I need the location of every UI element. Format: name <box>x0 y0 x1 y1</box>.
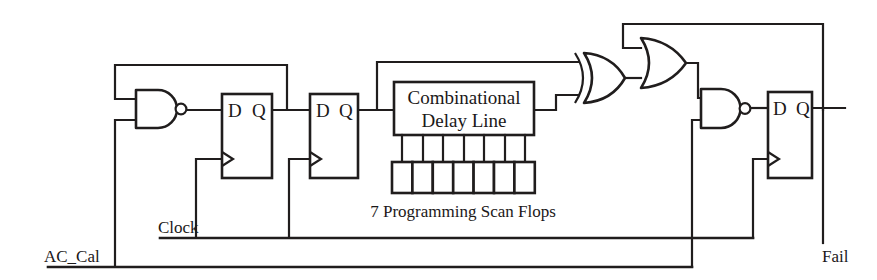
delay-line-label-line1: Combinational <box>408 87 521 108</box>
or-body <box>641 38 686 88</box>
wire-delay-line-out-to-xor-bottom <box>534 95 578 110</box>
nand-gate-right <box>701 89 750 128</box>
scan-flop-cell-7 <box>514 162 534 193</box>
d-flip-flop-3: D Q <box>768 92 812 178</box>
scan-flop-cell-1 <box>392 162 412 193</box>
scan-flop-cell-5 <box>474 162 494 193</box>
or-gate <box>641 38 686 88</box>
flop2-d-label: D <box>316 100 330 121</box>
flop2-q-label: Q <box>339 100 353 121</box>
scan-flop-cell-3 <box>433 162 453 193</box>
xor-body <box>584 53 625 103</box>
wire-clock-to-flop2-clk <box>289 159 310 238</box>
wire-ac-cal-to-nand-left <box>115 120 136 267</box>
circuit-diagram: D Q D Q Combinational Delay Line 7 Progr… <box>0 0 877 280</box>
nand-left-inversion-bubble <box>176 104 187 115</box>
flop3-d-label: D <box>773 98 787 119</box>
flop1-q-label: Q <box>252 100 266 121</box>
wire-ac-cal-to-nand-right <box>692 120 701 267</box>
scan-flop-cell-4 <box>453 162 473 193</box>
flop3-q-label: Q <box>796 98 810 119</box>
scan-flop-cell-2 <box>412 162 432 193</box>
delay-line-label-line2: Delay Line <box>422 110 507 131</box>
nand-right-body <box>701 89 741 128</box>
nand-right-inversion-bubble <box>740 103 751 114</box>
circuit-schematic-canvas: D Q D Q Combinational Delay Line 7 Progr… <box>0 0 877 280</box>
signal-label-ac-cal: AC_Cal <box>44 247 100 266</box>
scan-flops-caption: 7 Programming Scan Flops <box>370 202 556 221</box>
wire-or-out-to-nand-right-top <box>686 63 701 98</box>
signal-label-clock: Clock <box>158 218 199 237</box>
nand-left-body <box>136 90 177 128</box>
d-flip-flop-1: D Q <box>222 94 272 178</box>
d-flip-flop-2: D Q <box>310 94 358 178</box>
wire-clock-to-flop3-clk <box>753 159 768 238</box>
scan-flop-cell-6 <box>494 162 514 193</box>
combinational-delay-line-block: Combinational Delay Line <box>394 82 534 135</box>
xor-gate <box>575 53 625 103</box>
programming-scan-flops-group: 7 Programming Scan Flops <box>370 135 556 221</box>
flop1-d-label: D <box>228 100 242 121</box>
nand-gate-left <box>136 90 186 128</box>
wire-clock-to-flop1-clk <box>196 159 222 238</box>
signal-label-fail: Fail <box>822 247 849 266</box>
